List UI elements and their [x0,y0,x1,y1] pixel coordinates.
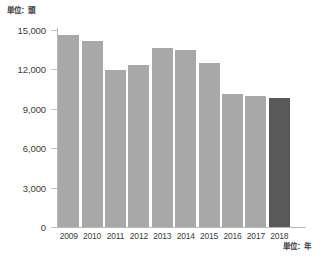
x-axis-tick-label: 2010 [80,231,103,241]
x-axis-tick-label: 2014 [174,231,197,241]
x-axis-tick-label: 2012 [127,231,150,241]
bar-2013 [152,48,173,227]
x-axis-unit-label: 単位：年 [283,240,311,251]
y-axis-tick-label: 15,000 [18,25,46,36]
bar-2015 [199,63,220,227]
y-axis-tick-label: 9,000 [23,103,46,114]
x-axis-tick-label: 2015 [197,231,220,241]
y-axis-tick-label: 3,000 [23,182,46,193]
y-axis-unit-label: 単位：頭 [7,4,35,15]
bar-2011 [105,70,126,227]
bar-2016 [222,94,243,227]
x-axis-tick-label: 2013 [151,231,174,241]
y-axis-tick [51,227,57,228]
x-axis-tick-label: 2009 [57,231,80,241]
bar-2018 [269,98,290,227]
plot-area [57,30,291,227]
x-axis-tick-label: 2011 [104,231,127,241]
y-axis-tick-label: 0 [41,222,46,233]
bar-2010 [82,41,103,227]
x-axis-tick-label: 2017 [244,231,267,241]
bar-2012 [128,65,149,227]
bar-2014 [175,50,196,227]
y-axis-tick-label: 12,000 [18,64,46,75]
bar-chart: 単位：頭 03,0006,0009,00012,00015,000 200920… [0,0,328,258]
x-axis-line [57,227,306,228]
bar-2017 [245,96,266,227]
x-axis-tick-label: 2016 [221,231,244,241]
y-axis-tick-label: 6,000 [23,143,46,154]
bar-2009 [58,35,79,227]
